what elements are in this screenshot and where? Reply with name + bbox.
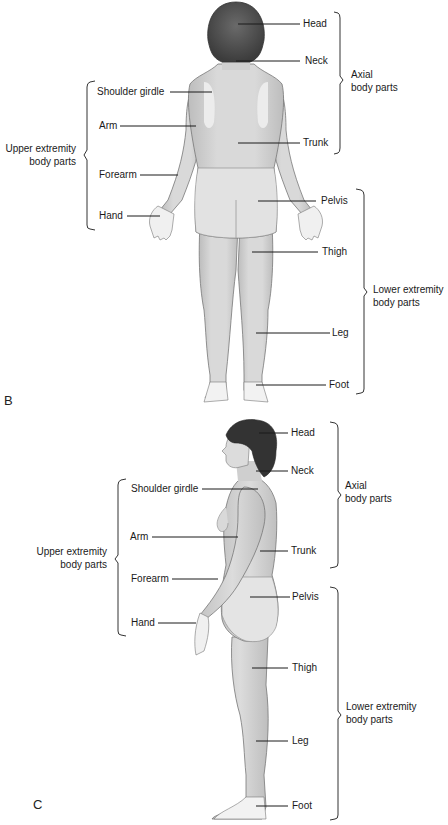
figure-posterior-view: Head Neck Shoulder girdle Arm Trunk Fore…	[0, 0, 448, 415]
group-label-line: Axial	[345, 479, 392, 492]
label-forearm: Forearm	[99, 169, 137, 181]
label-head: Head	[291, 427, 315, 439]
group-upper-extremity-body-parts: Upper extremity body parts	[30, 545, 107, 571]
group-label-line: Axial	[351, 68, 398, 81]
label-pelvis: Pelvis	[292, 591, 319, 603]
group-label-line: body parts	[346, 713, 417, 726]
label-neck: Neck	[291, 465, 314, 477]
label-foot: Foot	[292, 800, 312, 812]
label-head: Head	[303, 18, 327, 30]
group-label-line: Lower extremity	[373, 283, 444, 296]
group-label-line: body parts	[351, 81, 398, 94]
lower-extremity-bracket	[356, 189, 367, 394]
figure-lateral-view: Head Neck Shoulder girdle Arm Trunk Fore…	[0, 415, 448, 825]
group-label-line: Upper extremity	[30, 545, 107, 558]
group-axial-body-parts: Axial body parts	[345, 479, 392, 505]
lower-extremity-bracket	[330, 587, 341, 820]
label-forearm: Forearm	[131, 573, 169, 585]
label-foot: Foot	[329, 379, 349, 391]
label-trunk: Trunk	[303, 137, 328, 149]
group-label-line: body parts	[2, 155, 76, 168]
group-label-line: Upper extremity	[2, 142, 76, 155]
group-lower-extremity-body-parts: Lower extremity body parts	[346, 700, 417, 726]
body-silhouette-lateral	[195, 420, 278, 819]
label-arm: Arm	[130, 531, 148, 543]
lateral-body-illustration	[0, 415, 448, 825]
group-upper-extremity-body-parts: Upper extremity body parts	[2, 142, 76, 168]
label-neck: Neck	[305, 55, 328, 67]
group-label-line: Lower extremity	[346, 700, 417, 713]
label-arm: Arm	[99, 120, 117, 132]
label-pelvis: Pelvis	[321, 195, 348, 207]
panel-letter-b: B	[4, 393, 13, 408]
group-label-line: body parts	[30, 558, 107, 571]
panel-letter-c: C	[33, 797, 42, 812]
label-leg: Leg	[292, 735, 309, 747]
label-leg: Leg	[332, 327, 349, 339]
group-label-line: body parts	[345, 492, 392, 505]
label-trunk: Trunk	[291, 545, 316, 557]
posterior-body-illustration	[0, 0, 448, 415]
upper-extremity-bracket	[84, 81, 95, 230]
body-silhouette-posterior	[149, 2, 322, 402]
label-hand: Hand	[131, 617, 155, 629]
upper-extremity-bracket	[115, 479, 126, 636]
group-label-line: body parts	[373, 296, 444, 309]
axial-bracket	[334, 12, 343, 154]
label-shoulder-girdle: Shoulder girdle	[131, 483, 198, 495]
axial-bracket	[330, 422, 341, 568]
group-axial-body-parts: Axial body parts	[351, 68, 398, 94]
label-thigh: Thigh	[292, 662, 317, 674]
group-lower-extremity-body-parts: Lower extremity body parts	[373, 283, 444, 309]
label-hand: Hand	[99, 210, 123, 222]
label-shoulder-girdle: Shoulder girdle	[97, 86, 164, 98]
label-thigh: Thigh	[322, 246, 347, 258]
